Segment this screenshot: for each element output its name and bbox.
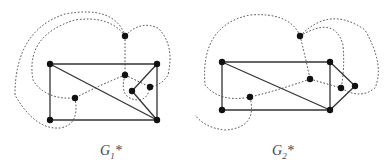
graph-g1 bbox=[15, 12, 170, 128]
diagram-canvas bbox=[0, 0, 390, 165]
caption-g2: G2* bbox=[272, 143, 294, 161]
graph-g2 bbox=[195, 15, 378, 130]
caption-g1-main: G bbox=[100, 143, 110, 158]
caption-g1-suffix: * bbox=[115, 143, 122, 158]
caption-g2-suffix: * bbox=[287, 143, 294, 158]
caption-g2-main: G bbox=[272, 143, 282, 158]
caption-g1: G1* bbox=[100, 143, 122, 161]
